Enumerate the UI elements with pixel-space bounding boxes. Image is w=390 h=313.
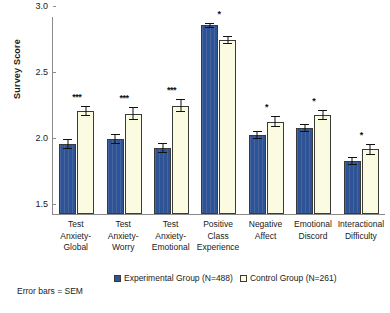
legend-item-experimental: Experimental Group (N=488) — [114, 273, 233, 283]
error-bar — [115, 134, 116, 145]
bar-experimental — [107, 17, 124, 214]
significance-marker: * — [312, 97, 315, 106]
bar-rect — [125, 114, 142, 214]
bar-rect — [314, 115, 331, 214]
bar-group: * — [290, 17, 337, 214]
bar-control — [172, 17, 189, 214]
significance-marker: *** — [72, 93, 81, 102]
bar-experimental — [59, 17, 76, 214]
bar-rect — [172, 106, 189, 214]
significance-marker: *** — [167, 86, 176, 95]
error-bar — [133, 107, 134, 120]
legend-swatch-control-icon — [240, 275, 247, 282]
error-bar — [352, 157, 353, 165]
bar-pair: *** — [53, 17, 100, 214]
bar-rect — [201, 25, 218, 214]
y-axis-tick: 2.0 — [35, 133, 53, 143]
legend-swatch-experimental-icon — [114, 275, 121, 282]
bar-pair: * — [195, 17, 242, 214]
x-axis-label: EmotionalDiscord — [289, 219, 336, 254]
error-bar — [67, 139, 68, 150]
y-axis-tick: 3.0 — [35, 1, 53, 11]
error-bar — [275, 116, 276, 127]
bar-rect — [219, 40, 236, 214]
legend-item-control: Control Group (N=261) — [240, 273, 337, 283]
error-bar — [227, 36, 228, 44]
x-axis-label: TestAnxiety-Global — [52, 219, 99, 254]
significance-marker: * — [360, 131, 363, 140]
survey-score-bar-chart: Survey Score 1.52.02.53.0 ************* … — [0, 0, 390, 313]
y-axis-title: Survey Score — [12, 14, 22, 124]
error-bar — [322, 110, 323, 121]
bar-control — [267, 17, 284, 214]
legend-label-experimental: Experimental Group (N=488) — [124, 273, 233, 283]
bar-pair: * — [243, 17, 290, 214]
bar-rect — [344, 161, 361, 214]
bar-control — [314, 17, 331, 214]
significance-marker: *** — [120, 94, 129, 103]
error-bar-footnote: Error bars = SEM — [17, 286, 83, 296]
x-axis-label: PositiveClassExperience — [194, 219, 241, 254]
bar-experimental — [344, 17, 361, 214]
bar-pair: * — [338, 17, 385, 214]
bar-group: *** — [148, 17, 195, 214]
bar-rect — [296, 128, 313, 214]
bar-rect — [249, 135, 266, 214]
bar-control — [77, 17, 94, 214]
x-axis-label: InteractionalDifficulty — [337, 219, 385, 254]
bar-control — [362, 17, 379, 214]
chart-legend: Experimental Group (N=488) Control Group… — [114, 273, 337, 283]
bar-rect — [107, 139, 124, 214]
legend-label-control: Control Group (N=261) — [250, 273, 337, 283]
plot-area: 1.52.02.53.0 ************* — [52, 17, 385, 215]
bar-control — [219, 17, 236, 214]
error-bar — [257, 131, 258, 139]
bar-pair: *** — [148, 17, 195, 214]
bar-pair: *** — [100, 17, 147, 214]
x-axis-label: TestAnxiety-Worry — [99, 219, 146, 254]
y-axis-tick: 1.5 — [35, 199, 53, 209]
x-axis-label: NegativeAffect — [242, 219, 289, 254]
y-axis-tick: 2.5 — [35, 67, 53, 77]
bar-rect — [362, 149, 379, 214]
bar-control — [125, 17, 142, 214]
bar-experimental — [154, 17, 171, 214]
bar-experimental — [201, 17, 218, 214]
x-axis-label: TestAnxiety-Emotional — [147, 219, 194, 254]
bar-group: * — [338, 17, 385, 214]
significance-marker: * — [265, 103, 268, 112]
bar-rect — [77, 111, 94, 214]
error-bar — [370, 144, 371, 155]
bar-rect — [267, 122, 284, 214]
bar-rect — [59, 144, 76, 214]
error-bar — [85, 106, 86, 117]
significance-marker: * — [217, 10, 220, 19]
bar-group: *** — [53, 17, 100, 214]
bar-group: * — [195, 17, 242, 214]
error-bar — [180, 99, 181, 112]
error-bar — [162, 143, 163, 154]
bar-experimental — [249, 17, 266, 214]
x-axis-labels: TestAnxiety-GlobalTestAnxiety-WorryTestA… — [52, 219, 385, 254]
bar-pair: * — [290, 17, 337, 214]
bar-experimental — [296, 17, 313, 214]
error-bar — [209, 23, 210, 28]
error-bar — [304, 124, 305, 132]
bar-group: * — [243, 17, 290, 214]
bar-groups: ************* — [53, 17, 385, 214]
bar-group: *** — [100, 17, 147, 214]
bar-rect — [154, 148, 171, 214]
